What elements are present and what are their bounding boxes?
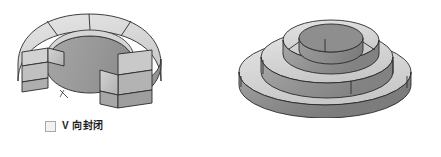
closed-ring-hole bbox=[299, 24, 363, 52]
v-closed-option-open[interactable]: V 向封闭 bbox=[45, 119, 105, 133]
open-ring-svg bbox=[0, 2, 220, 118]
figure-panel-closed: ✓ V 向封闭 bbox=[221, 0, 441, 157]
open-ring-seam-lower-left bbox=[60, 90, 68, 98]
v-closed-label-open: V 向封闭 bbox=[60, 119, 105, 133]
figure-panel-open: V 向封闭 bbox=[0, 0, 220, 157]
closed-ring-illustration bbox=[221, 2, 441, 118]
open-ring-illustration bbox=[0, 2, 220, 118]
v-closed-checkbox-unchecked[interactable] bbox=[45, 121, 56, 132]
closed-ring-svg bbox=[221, 2, 441, 118]
